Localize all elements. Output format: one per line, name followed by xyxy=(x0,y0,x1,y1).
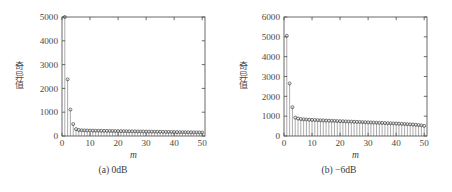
x-tick-label: 40 xyxy=(170,138,180,148)
x-axis-title: m xyxy=(352,150,359,160)
x-tick-label: 10 xyxy=(307,138,317,148)
y-tick-label: 5000 xyxy=(262,32,281,42)
y-tick-label: 4000 xyxy=(40,36,59,46)
y-tick-label: 0 xyxy=(53,131,58,141)
plot-frame xyxy=(62,17,205,136)
panel-caption-b: (b) −6dB xyxy=(226,164,452,175)
x-tick-label: 50 xyxy=(420,138,430,148)
y-tick-label: 0 xyxy=(275,131,280,141)
y-tick-label: 4000 xyxy=(262,52,281,62)
x-axis-title: m xyxy=(130,150,137,160)
x-tick-label: 40 xyxy=(392,138,402,148)
y-tick-label: 1000 xyxy=(40,107,59,117)
x-tick-label: 0 xyxy=(282,138,287,148)
x-tick-label: 20 xyxy=(335,138,345,148)
panel-b: 010203040500100020003000400050006000m 奇异… xyxy=(226,0,452,192)
y-axis-label-char: 值 xyxy=(238,81,248,91)
y-tick-label: 2000 xyxy=(262,92,281,102)
y-axis-label-b: 奇异值 xyxy=(238,62,248,91)
marker-group xyxy=(63,16,203,135)
x-tick-label: 10 xyxy=(85,138,95,148)
panel-a: 01020304050010002000300040005000m 奇异值 (a… xyxy=(0,0,226,192)
y-tick-label: 3000 xyxy=(262,72,281,82)
x-tick-label: 0 xyxy=(60,138,65,148)
x-tick-label: 20 xyxy=(113,138,123,148)
stem-group xyxy=(65,17,202,136)
marker-group xyxy=(285,34,425,127)
x-tick-label: 30 xyxy=(364,138,374,148)
y-tick-label: 2000 xyxy=(40,84,59,94)
figure-container: 01020304050010002000300040005000m 奇异值 (a… xyxy=(0,0,452,192)
y-axis-label-a: 奇异值 xyxy=(14,62,24,91)
y-axis-label-char: 值 xyxy=(14,81,24,91)
x-tick-label: 50 xyxy=(198,138,208,148)
x-tick-label: 30 xyxy=(142,138,152,148)
y-tick-label: 1000 xyxy=(262,111,281,121)
axis-frame xyxy=(62,17,205,136)
y-tick-label: 3000 xyxy=(40,60,59,70)
y-tick-label: 5000 xyxy=(40,12,59,22)
panel-caption-a: (a) 0dB xyxy=(0,164,226,175)
y-tick-label: 6000 xyxy=(262,12,281,22)
